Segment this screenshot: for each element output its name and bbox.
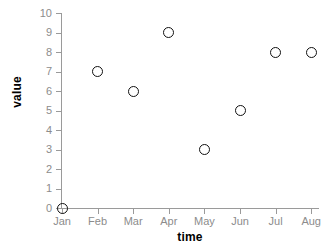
y-tick-label: 1 [26,183,52,194]
x-tick-label: Aug [289,215,333,227]
y-tick-label-text: 4 [26,125,52,136]
y-tick-label: 4 [26,125,52,136]
x-axis-line [61,208,319,209]
x-tick-mark [311,209,312,214]
y-tick-mark [56,72,61,73]
y-tick-label-text: 0 [26,203,52,214]
x-tick-mark [98,209,99,214]
y-tick-label: 5 [26,105,52,116]
y-tick-label: 2 [26,164,52,175]
x-tick-mark [133,209,134,214]
data-point [128,86,139,97]
data-point [57,203,68,214]
y-tick-label-text: 7 [26,66,52,77]
x-tick-mark [240,209,241,214]
y-tick-label-text: 8 [26,47,52,58]
y-tick-label-text: 6 [26,86,52,97]
y-tick-mark [56,33,61,34]
y-axis-line [61,13,62,209]
y-tick-mark [56,91,61,92]
data-point [235,105,246,116]
y-axis-title: value [10,62,24,122]
y-tick-label: 8 [26,47,52,58]
data-point [199,144,210,155]
data-point [163,27,174,38]
y-tick-label: 7 [26,66,52,77]
y-tick-label: 6 [26,86,52,97]
y-tick-label: 9 [26,27,52,38]
y-tick-label-text: 3 [26,144,52,155]
y-tick-label: 10 [26,8,52,19]
x-tick-mark [276,209,277,214]
y-tick-mark [56,52,61,53]
y-tick-label-text: 1 [26,183,52,194]
y-tick-mark [56,111,61,112]
y-tick-mark [56,130,61,131]
data-point [92,66,103,77]
y-tick-label-text: 10 [26,8,52,19]
y-tick-label-text: 2 [26,164,52,175]
data-point [270,47,281,58]
y-tick-label: 0 [26,203,52,214]
data-point [306,47,317,58]
x-axis-title: time [61,230,319,244]
y-tick-mark [56,13,61,14]
y-tick-mark [56,189,61,190]
y-tick-label-text: 5 [26,105,52,116]
y-tick-mark [56,150,61,151]
scatter-chart: 012345678910 JanFebMarAprMayJunJulAug va… [0,0,335,248]
y-tick-mark [56,169,61,170]
y-tick-label: 3 [26,144,52,155]
x-tick-mark [204,209,205,214]
x-tick-mark [169,209,170,214]
y-tick-label-text: 9 [26,27,52,38]
